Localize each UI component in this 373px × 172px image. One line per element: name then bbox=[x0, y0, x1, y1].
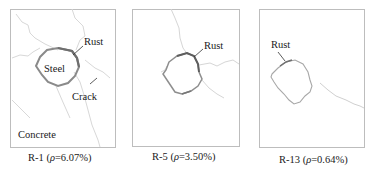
r1-cross-section-drawing bbox=[0, 0, 125, 172]
r1-crack-lines bbox=[12, 9, 110, 147]
r5-cross-section-drawing bbox=[125, 0, 250, 172]
r1-caption: R-1 (ρ=6.07%) bbox=[28, 153, 91, 164]
panel-r13: Rust R-13 (ρ=0.64%) bbox=[250, 0, 373, 172]
r5-crack-lines bbox=[161, 9, 239, 98]
r5-rust-label: Rust bbox=[204, 41, 223, 52]
r1-rust-label: Rust bbox=[84, 37, 103, 48]
r1-crack-leader bbox=[90, 78, 97, 84]
r5-caption: R-5 (ρ=3.50%) bbox=[152, 152, 215, 163]
panel-r1: Rust Steel Crack Concrete R-1 (ρ=6.07%) bbox=[0, 0, 125, 172]
r1-frame bbox=[11, 10, 116, 148]
r1-steel-label: Steel bbox=[44, 64, 65, 75]
r13-caption: R-13 (ρ=0.64%) bbox=[279, 155, 348, 166]
r13-crack-lines bbox=[320, 83, 364, 108]
r13-rust-label: Rust bbox=[271, 40, 290, 51]
r13-rust-leader bbox=[278, 52, 285, 61]
r13-steel-outline bbox=[271, 60, 312, 104]
r5-frame bbox=[133, 10, 240, 147]
r13-frame bbox=[260, 10, 365, 148]
r5-rust-leader bbox=[194, 49, 203, 57]
panel-r5: Rust R-5 (ρ=3.50%) bbox=[125, 0, 250, 172]
r13-cross-section-drawing bbox=[250, 0, 373, 172]
r1-concrete-label: Concrete bbox=[18, 130, 56, 141]
r1-crack-label: Crack bbox=[72, 92, 97, 103]
r1-rust-leader bbox=[73, 46, 83, 55]
